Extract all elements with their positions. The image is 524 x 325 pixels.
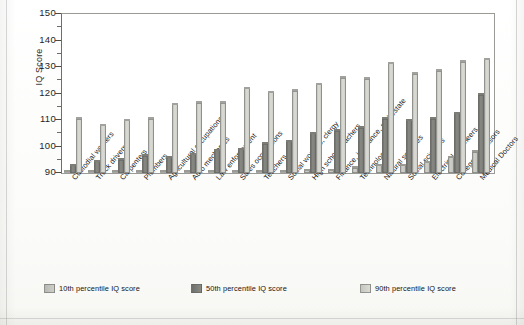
bar <box>460 62 465 173</box>
bar <box>310 133 315 173</box>
bar-face <box>358 128 363 173</box>
bar-face <box>382 119 387 173</box>
bar <box>430 119 435 173</box>
bar-face <box>388 63 393 173</box>
bar <box>238 149 243 173</box>
legend-swatch <box>44 284 55 293</box>
bar-top-cap <box>208 170 213 172</box>
bar-top-cap <box>166 156 171 158</box>
page-edge-right <box>516 0 517 325</box>
bar-top-cap <box>472 150 477 152</box>
bar <box>232 172 237 174</box>
bar <box>484 59 489 173</box>
bar-group <box>64 14 81 173</box>
x-axis-labels: Custodial workersTruck driversCarpenters… <box>0 176 524 262</box>
bar-face <box>478 95 483 173</box>
bar-top-cap <box>352 166 357 168</box>
bar <box>328 170 333 173</box>
bar-face <box>400 165 405 173</box>
bar <box>268 92 273 173</box>
bar-top-cap <box>70 164 75 166</box>
bar-top-cap <box>220 101 225 103</box>
bar <box>184 172 189 174</box>
bar-face <box>406 120 411 173</box>
y-tick-label: 100 <box>30 140 56 151</box>
bar-face <box>340 78 345 173</box>
bar-face <box>244 88 249 173</box>
bar-face <box>376 165 381 173</box>
bar-face <box>238 149 243 173</box>
bar-top-cap <box>238 148 243 150</box>
bar <box>448 157 453 173</box>
bar-top-cap <box>304 169 309 171</box>
bar-top-cap <box>340 76 345 78</box>
bar-top-cap <box>286 140 291 142</box>
bar-top-cap <box>94 160 99 162</box>
bar <box>388 63 393 173</box>
bar <box>406 120 411 173</box>
bar-top-cap <box>484 58 489 60</box>
bar-top-cap <box>364 77 369 79</box>
page-edge-left <box>6 0 7 325</box>
bar-face <box>94 161 99 173</box>
bar <box>142 156 147 173</box>
bar <box>424 162 429 173</box>
bar-top-cap <box>478 93 483 95</box>
bar <box>190 154 195 173</box>
bar <box>112 172 117 174</box>
bar-top-cap <box>406 119 411 121</box>
bar-top-cap <box>460 60 465 62</box>
bar-face <box>292 91 297 173</box>
bar-top-cap <box>256 170 261 172</box>
bar-top-cap <box>316 83 321 85</box>
bar-face <box>364 79 369 173</box>
bar-top-cap <box>100 124 105 126</box>
bar <box>124 120 129 173</box>
bar-top-cap <box>448 156 453 158</box>
bar <box>334 131 339 173</box>
bar-face <box>436 71 441 173</box>
bar <box>376 165 381 173</box>
bar <box>352 168 357 173</box>
bar-top-cap <box>280 170 285 172</box>
bar-face <box>190 154 195 173</box>
bar-face <box>310 133 315 173</box>
bar-face <box>148 119 153 173</box>
bar-face <box>286 141 291 173</box>
bar <box>358 128 363 173</box>
bar <box>208 172 213 174</box>
bar <box>148 119 153 173</box>
bar-top-cap <box>88 170 93 172</box>
bar-top-cap <box>232 170 237 172</box>
bar-top-cap <box>136 170 141 172</box>
y-tick-label: 140 <box>30 34 56 45</box>
bar-face <box>352 168 357 173</box>
bar-face <box>196 103 201 173</box>
bar-face <box>118 160 123 173</box>
bar-top-cap <box>388 62 393 64</box>
bar-top-cap <box>328 169 333 171</box>
bar-face <box>220 103 225 173</box>
bar-top-cap <box>424 161 429 163</box>
bar <box>256 172 261 174</box>
scanned-page: IQ Score 15014013012011010090 Custodial … <box>0 0 524 325</box>
legend-item: 10th percentile IQ score <box>44 284 140 293</box>
bar-top-cap <box>244 87 249 89</box>
bar-top-cap <box>172 103 177 105</box>
bar <box>220 103 225 173</box>
bar <box>472 152 477 173</box>
legend-label: 50th percentile IQ score <box>206 284 287 293</box>
bar-top-cap <box>430 117 435 119</box>
bar <box>100 125 105 173</box>
bar-top-cap <box>148 117 153 119</box>
bar-top-cap <box>400 164 405 166</box>
bar <box>172 104 177 173</box>
bar-face <box>76 119 81 173</box>
bar-face <box>412 74 417 173</box>
bar-face <box>448 157 453 173</box>
bar <box>244 88 249 173</box>
bar <box>136 172 141 174</box>
legend-item: 50th percentile IQ score <box>191 284 287 293</box>
bar-top-cap <box>412 72 417 74</box>
y-tick-label: 110 <box>30 113 56 124</box>
